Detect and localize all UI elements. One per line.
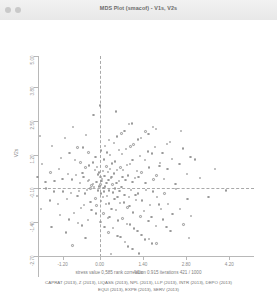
scatter-point [156,196,158,198]
scatter-point [167,203,169,205]
scatter-point [108,189,110,191]
scatter-point [106,151,108,153]
scatter-point [154,146,156,148]
scatter-point [118,190,120,192]
scatter-point [53,190,55,192]
scatter-point [82,176,84,178]
scatter-point [78,190,80,192]
scatter-point [60,157,62,159]
scatter-point [144,159,146,161]
scatter-point [97,189,99,191]
scatter-point [194,158,196,160]
scatter-point [45,187,47,189]
scatter-point [186,198,188,200]
scatter-point [44,181,46,183]
scatter-point [125,148,127,150]
scatter-point [81,224,83,226]
scatter-point [49,199,51,201]
plot-canvas: -2.70-1.40-0.101.202.503.805.00-1.200.00… [0,20,277,303]
scatter-point [171,158,173,160]
scatter-point [107,179,109,181]
scatter-point [108,139,110,141]
scatter-point [61,178,63,180]
scatter-point [110,208,112,210]
scatter-point [71,244,73,246]
scatter-point [166,143,168,145]
scatter-point [103,190,105,192]
scatter-point [76,146,78,148]
scatter-point [99,221,101,223]
scatter-point [115,182,117,184]
scatter-point [90,209,92,211]
scatter-point [59,214,61,216]
scatter-point [100,180,102,182]
scatter-point [121,217,123,219]
scatter-point [118,149,120,151]
scatter-point [71,178,73,180]
scatter-point [140,171,142,173]
scatter-point [189,156,191,158]
scatter-point [134,194,136,196]
scatter-point [89,201,91,203]
scatter-point [108,216,110,218]
scatter-point [83,204,85,206]
scatter-point [155,225,157,227]
scatter-point [145,189,147,191]
scatter-point [127,245,129,247]
scatter-point [152,178,154,180]
scatter-point [123,201,125,203]
scatter-point [114,187,116,189]
scatter-point [84,237,86,239]
scatter-point [165,226,167,228]
scatter-point [36,195,38,197]
scatter-point [114,160,116,162]
scatter-point [144,238,146,240]
legend-line-2: EQUI (2013), EXPE (2013), SERV (2013) [0,287,277,292]
scatter-point [128,123,130,125]
scatter-point [128,196,130,198]
scatter-point [116,169,118,171]
scatter-point [126,164,128,166]
scatter-point [169,141,171,143]
scatter-point [155,128,157,130]
scatter-point [72,126,74,128]
scatter-point [129,223,131,225]
scatter-point [158,203,160,205]
scatter-point [130,189,132,191]
scatter-point [111,183,113,185]
window-title: MDS Plot (smacof) - V1s, V2s [0,5,277,11]
scatter-point [107,171,109,173]
scatter-point [109,168,111,170]
scatter-point [116,196,118,198]
scatter-point [98,171,100,173]
scatter-point [66,198,68,200]
scatter-point [94,156,96,158]
scatter-point [92,183,94,185]
scatter-point [106,195,108,197]
scatter-point [95,204,97,206]
scatter-point [115,110,117,112]
scatter-point [100,192,102,194]
scatter-point [134,177,136,179]
scatter-point [182,223,184,225]
scatter-point [79,182,81,184]
scatter-point [50,226,52,228]
scatter-point [132,143,134,145]
scatter-point [174,183,176,185]
scatter-point [113,172,115,174]
scatter-point [137,176,139,178]
scatter-point [49,171,51,173]
scatter-point [115,209,117,211]
scatter-point [110,253,112,255]
scatter-point [102,212,104,214]
scatter-point [123,130,125,132]
scatter-point [180,130,182,132]
scatter-point [92,161,94,163]
scatter-point [182,147,184,149]
scatter-point [112,227,114,229]
y-axis-title: V2s [13,149,19,158]
scatter-point [67,173,69,175]
scatter-point [100,149,102,151]
scatter-point [186,173,188,175]
scatter-point [116,135,118,137]
